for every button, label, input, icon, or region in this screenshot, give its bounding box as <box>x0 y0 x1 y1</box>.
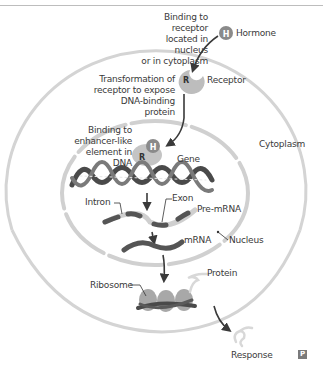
pre-mrna-strand <box>105 210 195 225</box>
receptor-molecule: R <box>179 70 205 94</box>
publisher-badge-icon: P <box>298 350 307 359</box>
label-protein: Protein <box>207 268 237 279</box>
label-receptor: Receptor <box>207 75 246 86</box>
hormone-molecule: H <box>219 26 233 40</box>
label-binding-receptor: Binding to receptor located in nucleus o… <box>133 12 208 67</box>
label-hormone: Hormone <box>236 28 276 39</box>
protein-chain <box>188 274 208 292</box>
exon-leader <box>162 199 172 222</box>
label-mrna: mRNA <box>184 235 211 246</box>
label-gene: Gene <box>177 154 200 165</box>
response-protein <box>235 327 252 346</box>
arrow-premrna-to-mrna <box>152 232 154 242</box>
label-intron: Intron <box>85 197 110 208</box>
label-transformation: Transformation of receptor to expose DNA… <box>92 74 175 118</box>
label-cytoplasm: Cytoplasm <box>259 139 305 150</box>
label-ribosome: Ribosome <box>90 280 133 291</box>
hormone-receptor-complex: R H <box>132 139 162 166</box>
svg-text:R: R <box>183 76 189 85</box>
label-binding-enhancer: Binding to enhancer-like element in DNA <box>72 125 132 169</box>
label-pre-mrna: Pre-mRNA <box>197 204 241 215</box>
arrow-mrna-to-ribosome <box>163 255 164 280</box>
label-nucleus: Nucleus <box>229 235 263 246</box>
svg-text:H: H <box>223 30 230 39</box>
mrna-strand <box>124 242 182 250</box>
intron-leader <box>114 203 122 214</box>
label-response: Response <box>231 350 273 361</box>
ribosomes <box>138 289 195 312</box>
label-exon: Exon <box>172 193 193 204</box>
svg-text:H: H <box>150 143 157 152</box>
